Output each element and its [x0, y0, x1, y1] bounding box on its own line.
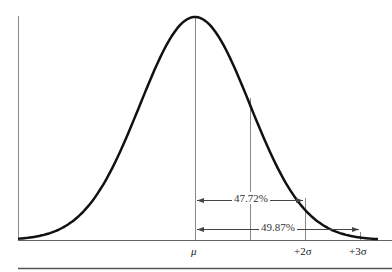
plus3sigma-label: +3σ	[349, 245, 367, 257]
pct-2sigma-label: 47.72%	[232, 192, 270, 204]
pct-3sigma-label: 49.87%	[259, 221, 297, 233]
bell-curve	[18, 17, 378, 239]
mu-label: μ	[191, 245, 197, 257]
plus2sigma-label: +2σ	[294, 245, 312, 257]
normal-curve-diagram	[0, 0, 392, 272]
